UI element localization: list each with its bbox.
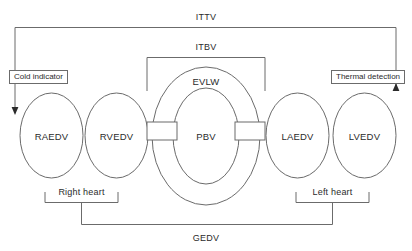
ittv-left-arrowhead — [12, 107, 19, 115]
right-heart-label: Right heart — [58, 187, 104, 197]
left-heart-label: Left heart — [312, 187, 352, 197]
evlw-label: EVLW — [192, 76, 219, 87]
diagram-canvas — [0, 0, 412, 251]
thermodilution-diagram: ITTV ITBV EVLW RAEDV RVEDV PBV LAEDV LVE… — [0, 0, 412, 251]
ittv-right-arrowhead — [393, 83, 400, 91]
rvedv-label: RVEDV — [100, 131, 134, 142]
ittv-label: ITTV — [196, 12, 216, 22]
connector-lung-to-left-heart — [235, 122, 265, 140]
thermal-detection-callout: Thermal detection — [331, 70, 405, 84]
cold-indicator-callout: Cold indicator — [9, 70, 68, 84]
gedv-label: GEDV — [193, 233, 219, 243]
connector-right-heart-to-lung — [147, 122, 177, 140]
itbv-label: ITBV — [196, 42, 217, 52]
raedv-label: RAEDV — [35, 131, 69, 142]
lvedv-label: LVEDV — [349, 131, 380, 142]
laedv-label: LAEDV — [281, 131, 313, 142]
pbv-label: PBV — [196, 131, 216, 142]
